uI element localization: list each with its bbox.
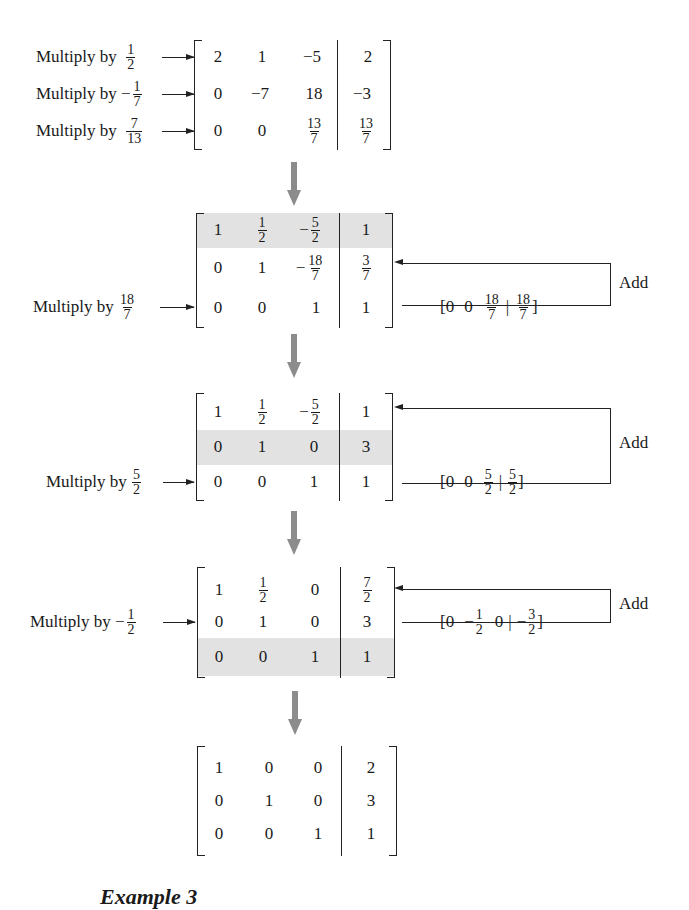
augment-divider [341,746,342,856]
cell: 2 [346,40,390,74]
augment-divider [339,393,340,501]
added-row-vector: [0052|52] [440,465,524,499]
cell: 0 [196,465,240,499]
added-row-vector: [00187|187] [440,290,538,324]
down-arrow-icon [287,511,301,557]
arrow-left-icon [394,259,403,265]
cell: 1 [196,213,240,247]
fraction: 17 [133,80,142,109]
cell: 0 [197,605,241,639]
cell: 1 [349,817,393,851]
add-label: Add [619,433,648,453]
cell: 1 [344,291,388,325]
augment-divider [339,213,340,328]
cell: 0 [196,430,240,464]
arrow-left-icon [394,404,403,410]
cell: 0 [241,640,285,674]
arrow-right-icon [163,622,195,623]
down-arrow-icon [287,334,301,380]
cell: 1 [247,784,291,818]
cell: 0 [240,291,284,325]
cell: 1 [294,291,338,325]
cell: 1 [296,817,340,851]
cell: 0 [196,114,240,148]
arrow-right-icon [162,57,194,58]
cell: 0 [240,114,284,148]
cell: 0 [197,640,241,674]
down-arrow-icon [288,691,302,737]
cell: 3 [345,605,389,639]
cell: 72 [345,573,389,607]
cell: 1 [345,640,389,674]
cell: 137 [292,114,336,148]
cell: 0 [240,465,284,499]
added-row-vector: [0−120|−32] [440,605,543,639]
cell: 2 [196,40,240,74]
add-label: Add [619,594,648,614]
arrow-right-icon [162,94,194,95]
cell: 1 [196,395,240,429]
cell: 1 [241,605,285,639]
cell: −7 [238,77,282,111]
fraction: 12 [126,43,135,72]
augment-divider [340,567,341,678]
cell: 1 [240,40,284,74]
cell: 0 [197,817,241,851]
cell: 0 [293,605,337,639]
example-caption: Example 3 [100,884,197,910]
cell: 0 [247,751,291,785]
arrow-right-icon [163,482,194,483]
cell: 3 [344,430,388,464]
cell: 1 [240,251,284,285]
cell: −3 [340,77,384,111]
row-op-label-1-3: Multiply by 713 [36,114,143,148]
cell: 1 [197,751,241,785]
cell: 1 [344,213,388,247]
row-op-label-3-3: Multiply by 52 [46,465,142,499]
cell: 12 [241,573,285,607]
row-op-label-1-2: Multiply by −17 [36,77,143,111]
cell: 0 [293,573,337,607]
cell: 0 [196,291,240,325]
augment-divider [337,40,338,150]
cell: 0 [196,251,240,285]
cell: 0 [197,784,241,818]
augmented-matrix-4: 1 12 0 72 0 1 0 3 0 0 1 1 [197,567,395,678]
cell: 12 [240,395,284,429]
cell: 137 [344,114,388,148]
row-op-label-4-2: Multiply by −12 [30,605,137,639]
cell: −52 [288,395,332,429]
row-op-label-2-3: Multiply by 187 [33,290,136,324]
augmented-matrix-3: 1 12 −52 1 0 1 0 3 0 0 1 1 [196,393,393,501]
add-label: Add [619,273,648,293]
cell: 0 [196,77,240,111]
arrow-right-icon [160,307,194,308]
cell: 3 [349,784,393,818]
augmented-matrix-5: 1 0 0 2 0 1 0 3 0 0 1 1 [197,746,397,856]
cell: 1 [197,573,241,607]
cell: 1 [293,640,337,674]
cell: 0 [292,430,336,464]
cell: 37 [344,251,388,285]
cell: 1 [344,395,388,429]
cell: 1 [344,465,388,499]
cell: 12 [240,213,284,247]
arrow-left-icon [394,585,403,591]
cell: 0 [296,751,340,785]
cell: 1 [292,465,336,499]
cell: 2 [349,751,393,785]
down-arrow-icon [287,162,301,208]
cell: −5 [290,40,334,74]
cell: 18 [292,77,336,111]
cell: −187 [288,251,332,285]
fraction: 713 [126,117,142,146]
arrow-right-icon [162,131,194,132]
cell: 0 [247,817,291,851]
augmented-matrix-2: 1 12 −52 1 0 1 −187 37 0 0 1 1 [196,213,393,328]
row-op-label-1-1: Multiply by 12 [36,40,136,74]
cell: −52 [288,213,332,247]
cell: 0 [296,784,340,818]
augmented-matrix-1: 2 1 −5 2 0 −7 18 −3 0 0 137 137 [194,40,391,150]
cell: 1 [240,430,284,464]
